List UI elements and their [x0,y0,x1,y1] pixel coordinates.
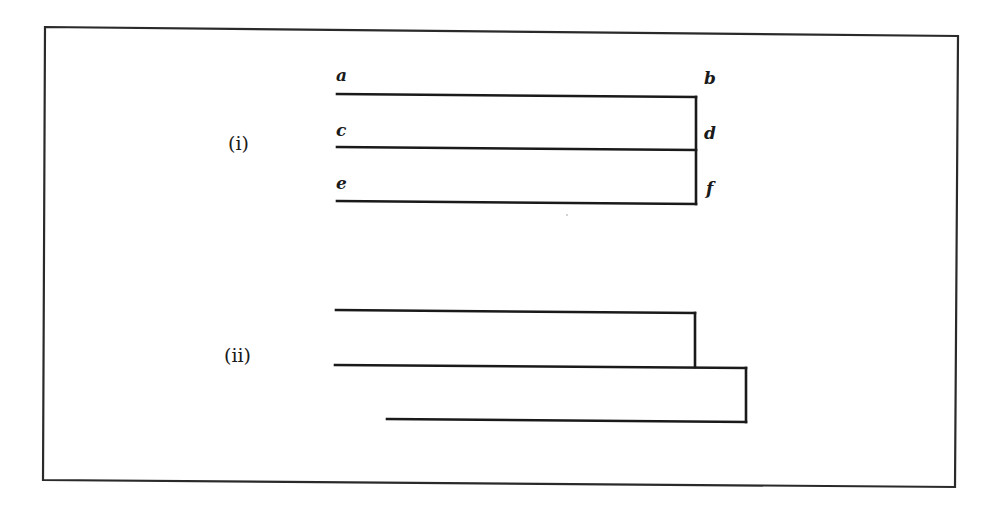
label-a: a [336,65,347,85]
line-a-b [337,94,696,97]
panel-i-label: (i) [228,132,249,154]
label-e: e [336,173,347,193]
panel-ii-label: (ii) [224,344,251,366]
panel-i: (i) a c e b d f [228,65,716,204]
line-bottom [387,419,746,422]
label-f: f [705,178,716,198]
label-c: c [336,120,347,140]
label-d: d [704,123,716,143]
line-c-d [337,147,696,150]
line-middle [335,365,746,368]
figure-canvas: (i) a c e b d f (ii) [0,0,1008,511]
line-top [336,310,695,313]
panel-ii: (ii) [224,310,746,422]
scan-speck [566,214,568,216]
line-e-f [337,201,696,204]
label-b: b [704,68,716,88]
